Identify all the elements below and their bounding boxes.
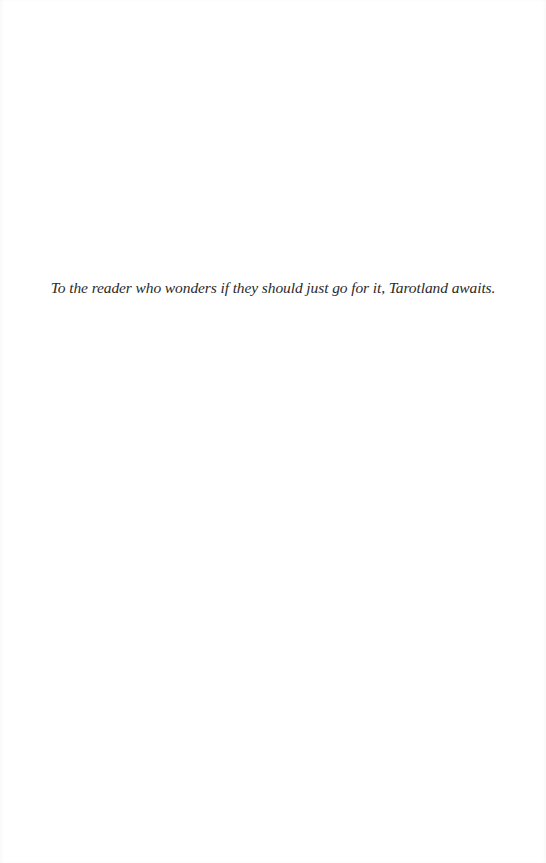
dedication-text: To the reader who wonders if they should… — [0, 277, 546, 299]
book-page: To the reader who wonders if they should… — [0, 0, 546, 863]
